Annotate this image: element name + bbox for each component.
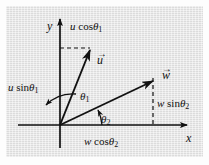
label-axis-y: y: [47, 20, 52, 32]
label-theta2: θ2: [101, 114, 110, 127]
label-w-cos-theta2-sub: 2: [114, 140, 118, 149]
label-u-cos-theta1-fn: cos: [76, 20, 93, 32]
vector-accent-icon: →: [162, 64, 170, 74]
label-theta1-sub: 1: [85, 95, 89, 104]
label-u-sin-theta1-sub: 1: [35, 86, 39, 95]
label-axis-x: x: [186, 132, 191, 144]
figure-page: u cosθ1 u sinθ1 w sinθ2 w cosθ2 θ1 θ2 →u…: [0, 0, 209, 165]
diagram-canvas: u cosθ1 u sinθ1 w sinθ2 w cosθ2 θ1 θ2 →u…: [6, 6, 203, 157]
label-u-sin-theta1-fn: sin: [14, 81, 30, 93]
label-u-cos-theta1-sub: 1: [98, 25, 102, 34]
label-axis-x-letter: x: [186, 131, 191, 145]
label-vector-w: →w: [162, 69, 170, 81]
vector-accent-icon: →: [97, 49, 103, 59]
label-axis-y-letter: y: [47, 19, 52, 33]
label-theta1: θ1: [80, 91, 89, 104]
label-w-cos-theta2-fn: cos: [91, 135, 108, 147]
label-w-cos-theta2: w cosθ2: [84, 136, 118, 149]
label-u-cos-theta1: u cosθ1: [70, 21, 102, 34]
label-w-sin-theta2-fn: sin: [164, 97, 180, 109]
label-theta2-sub: 2: [106, 118, 110, 127]
label-u-sin-theta1: u sinθ1: [8, 82, 38, 95]
label-w-sin-theta2: w sinθ2: [157, 98, 189, 111]
label-w-sin-theta2-sub: 2: [185, 102, 189, 111]
label-vector-u: →u: [97, 54, 103, 66]
